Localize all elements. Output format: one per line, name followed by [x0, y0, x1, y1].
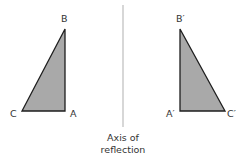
axis-caption-line-2: reflection [101, 144, 146, 155]
reflection-diagram: B C A B′ A′ C′ Axis of reflection [0, 0, 246, 159]
axis-caption-line-1: Axis of [107, 132, 140, 143]
vertex-label-c: C [10, 108, 17, 119]
vertex-label-b: B [61, 13, 68, 24]
reflected-triangle [180, 29, 225, 111]
vertex-label-b-prime: B′ [176, 13, 185, 24]
original-triangle [22, 29, 65, 111]
vertex-label-a: A [70, 108, 77, 119]
vertex-label-c-prime: C′ [227, 108, 236, 119]
vertex-label-a-prime: A′ [166, 108, 175, 119]
